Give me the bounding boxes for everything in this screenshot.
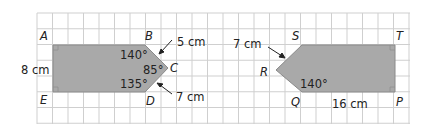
side-length-bc: 5 cm	[177, 35, 206, 49]
vertex-label-c: C	[170, 61, 178, 75]
angle-q: 140°	[300, 77, 328, 91]
pentagon-pqrst	[276, 45, 395, 92]
side-length-qp: 16 cm	[332, 97, 368, 111]
vertex-label-d: D	[146, 94, 155, 108]
vertex-label-e: E	[40, 93, 48, 107]
vertex-label-t: T	[396, 29, 404, 43]
side-length-ae: 8 cm	[21, 63, 50, 77]
diagram-canvas: A B C D E 8 cm 5 cm 7 cm 140° 85° 135° 7…	[0, 0, 427, 134]
angle-c: 85°	[143, 63, 163, 77]
vertex-label-q: Q	[291, 95, 300, 109]
side-length-rs: 7 cm	[233, 37, 262, 51]
vertex-label-b: B	[145, 29, 153, 43]
side-length-cd: 7 cm	[176, 90, 205, 104]
vertex-label-a: A	[39, 29, 48, 43]
vertex-label-p: P	[396, 95, 403, 109]
vertex-label-s: S	[292, 29, 299, 43]
vertex-label-r: R	[260, 65, 268, 79]
angle-d: 135°	[120, 77, 148, 91]
angle-b: 140°	[120, 48, 148, 62]
